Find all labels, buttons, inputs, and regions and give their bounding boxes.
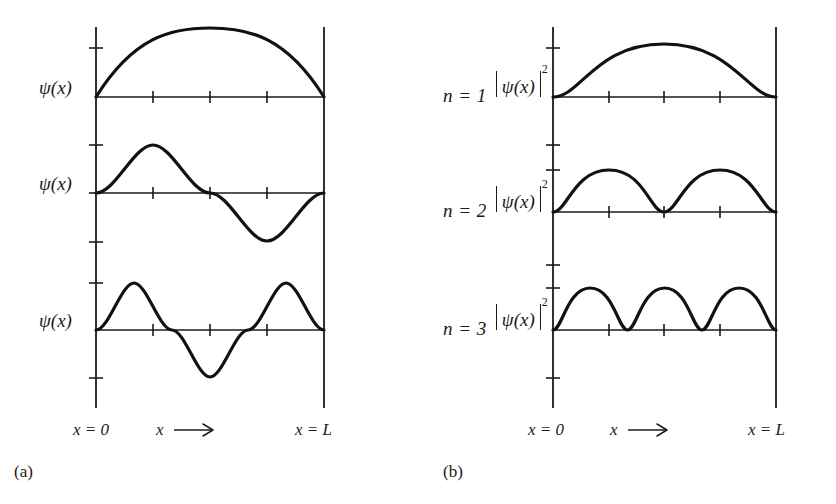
wavefunction-figure-canvas (0, 0, 836, 504)
panel-b-x-left-label: x = 0 (528, 421, 564, 438)
panel-b-density-n1 (553, 44, 776, 97)
panel-a-wave-n1 (96, 28, 324, 97)
panel-a-row3-psi-label: ψ(x) (39, 311, 72, 330)
panel-b-row2-label: n = 2 ψ(x) 2 (443, 191, 547, 220)
panel-b-row1-label: n = 1 ψ(x) 2 (443, 76, 547, 105)
panel-a-row2-psi-label: ψ(x) (39, 174, 72, 193)
panel-a-graphics (89, 27, 324, 436)
panel-b-row3-n-text: n = 3 (443, 319, 487, 338)
panel-a-caption: (a) (14, 463, 33, 480)
panel-b-row3-modulus: ψ(x) 2 (496, 309, 547, 335)
panel-b-x-right-label: x = L (748, 421, 785, 438)
panel-a-x-arrow-label: x (156, 421, 164, 438)
panel-b-row2-exponent: 2 (542, 178, 548, 190)
panel-b-row1-n-text: n = 1 (443, 86, 487, 105)
panel-b-density-n3 (553, 288, 776, 330)
panel-b-caption: (b) (443, 463, 463, 480)
panel-b-row3-psi: ψ(x) (497, 310, 540, 329)
panel-b-row1-psi: ψ(x) (497, 77, 540, 96)
panel-b-row3-exponent: 2 (542, 296, 548, 308)
modulus-bar-right-icon (540, 71, 541, 97)
modulus-bar-right-icon (540, 304, 541, 330)
panel-b-graphics (546, 27, 776, 436)
modulus-bar-right-icon (540, 186, 541, 212)
panel-b-row3-label: n = 3 ψ(x) 2 (443, 309, 547, 338)
panel-b-row1-exponent: 2 (542, 63, 548, 75)
panel-a-x-right-label: x = L (295, 421, 332, 438)
panel-b-x-arrow-label: x (610, 421, 618, 438)
panel-b-row2-modulus: ψ(x) 2 (496, 191, 547, 217)
panel-b-row1-modulus: ψ(x) 2 (496, 76, 547, 102)
panel-b-row2-psi: ψ(x) (497, 192, 540, 211)
panel-a-row1-psi-label: ψ(x) (39, 78, 72, 97)
figure-root: ψ(x) ψ(x) ψ(x) x = 0 x x = L (a) n = 1 ψ… (0, 0, 836, 504)
panel-b-row2-n-text: n = 2 (443, 201, 487, 220)
panel-a-x-left-label: x = 0 (73, 421, 109, 438)
panel-b-density-n2 (553, 170, 776, 212)
